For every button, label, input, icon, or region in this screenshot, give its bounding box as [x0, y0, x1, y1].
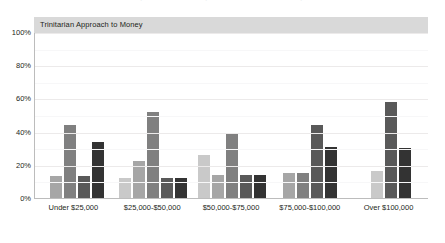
gridline-minor	[35, 83, 428, 84]
bar	[297, 173, 309, 198]
x-axis-labels: Under $25,000$25,000-$50,000$50,000-$75,…	[34, 203, 428, 219]
cropped-text-artifact: ···	[0, 0, 445, 12]
gridline-minor	[35, 149, 428, 150]
x-axis-tick-label: $50,000-$75,000	[192, 203, 271, 212]
y-axis-labels: 0%20%40%60%80%100%	[0, 33, 31, 199]
gridline	[35, 66, 428, 67]
x-axis-line	[35, 198, 428, 199]
y-axis-tick-label: 80%	[16, 62, 31, 70]
bar	[147, 112, 159, 198]
x-axis-tick-label: Under $25,000	[34, 203, 113, 212]
y-axis-tick-label: 60%	[16, 95, 31, 103]
bar	[240, 175, 252, 198]
bar	[371, 171, 383, 198]
bar	[92, 142, 104, 198]
gridline	[35, 166, 428, 167]
y-axis-tick-label: 100%	[12, 29, 31, 37]
bar	[254, 175, 266, 198]
y-axis-tick-label: 20%	[16, 162, 31, 170]
bar	[78, 176, 90, 198]
chart-title-band: Trinitarian Approach to Money	[34, 17, 428, 33]
gridline-minor	[35, 182, 428, 183]
bar	[283, 173, 295, 198]
bar	[119, 178, 131, 198]
gridline	[35, 133, 428, 134]
chart-container: ··· Trinitarian Approach to Money 0%20%4…	[0, 0, 445, 243]
gridline	[35, 33, 428, 34]
x-axis-tick-label: $25,000-$50,000	[113, 203, 192, 212]
x-axis-tick-label: Over $100,000	[349, 203, 428, 212]
y-axis-tick-label: 0%	[20, 195, 31, 203]
bar	[50, 176, 62, 198]
gridline	[35, 99, 428, 100]
bar	[399, 148, 411, 198]
gridline-minor	[35, 50, 428, 51]
y-axis-tick-label: 40%	[16, 129, 31, 137]
bar	[325, 147, 337, 198]
gridline-minor	[35, 116, 428, 117]
bar	[198, 155, 210, 198]
bar	[212, 175, 224, 198]
x-axis-tick-label: $75,000-$100,000	[270, 203, 349, 212]
bar	[161, 178, 173, 198]
bar	[175, 178, 187, 198]
plot-area	[34, 33, 428, 199]
bar	[311, 125, 323, 198]
bar	[64, 125, 76, 198]
chart-title: Trinitarian Approach to Money	[40, 20, 143, 29]
